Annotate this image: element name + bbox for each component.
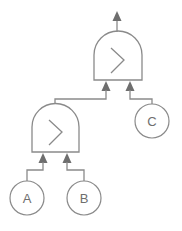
arrow-up-icon — [126, 81, 135, 91]
arrow-up-icon — [113, 11, 122, 21]
input-c-node[interactable]: C — [135, 104, 169, 138]
expression-tree-diagram: C A B — [0, 0, 182, 231]
arrow-up-icon — [102, 81, 111, 91]
gate-top-input-arrows — [102, 81, 135, 91]
greater-than-icon — [111, 48, 124, 73]
edge-gate-bottom-to-gate-top — [55, 90, 106, 104]
gate-bottom-input-arrows — [39, 153, 72, 163]
gate-top[interactable] — [94, 31, 142, 80]
input-b-node[interactable]: B — [67, 181, 101, 215]
edge-b-to-gate-bottom — [67, 162, 84, 181]
input-a-label: A — [23, 191, 32, 206]
edge-a-to-gate-bottom — [27, 162, 43, 181]
gate-bottom[interactable] — [32, 104, 79, 152]
edge-c-to-gate-top — [130, 90, 152, 104]
input-a-node[interactable]: A — [10, 181, 44, 215]
input-c-label: C — [147, 114, 156, 129]
arrow-up-icon — [39, 153, 48, 163]
output-arrow — [113, 11, 122, 32]
greater-than-icon — [49, 120, 62, 145]
arrow-up-icon — [63, 153, 72, 163]
input-b-label: B — [80, 191, 89, 206]
